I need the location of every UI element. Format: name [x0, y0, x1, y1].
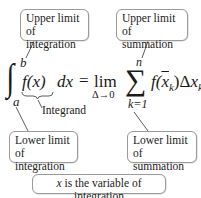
callout-lower-limit-integration: Lower limit of integration	[9, 131, 78, 163]
callout-line-2: of summation	[133, 147, 191, 173]
callout-line-1: Lower limit	[15, 134, 72, 147]
summand-delta: )Δ	[174, 72, 191, 91]
summand: f(xk)Δxk	[151, 72, 201, 93]
callout-line-1: Upper limit	[26, 12, 83, 25]
callout-line-2: of summation	[122, 25, 182, 51]
integral-upper-limit: b	[20, 55, 27, 71]
callout-line-1: Lower limit	[133, 134, 191, 147]
integrand: f(x)	[22, 72, 46, 92]
equals-sign: =	[79, 71, 89, 91]
integral-lower-limit: a	[13, 94, 20, 110]
summand-x: x	[190, 72, 198, 91]
integrand-label: Integrand	[42, 104, 86, 116]
summand-f: f(	[151, 72, 161, 91]
callout-line-2: of integration	[26, 25, 83, 51]
summand-xbar: x	[161, 72, 169, 91]
differential: dx	[57, 72, 73, 92]
integral-sign: ∫	[6, 55, 14, 99]
callout-line-2: of integration	[15, 147, 72, 173]
summation-lower-limit: k=1	[128, 97, 147, 112]
summand-subscript-k2: k	[198, 81, 201, 93]
limit-subscript: Δ→0	[92, 89, 115, 100]
integrand-brace	[22, 92, 53, 99]
variable-of-integration-note: x is the variable of integration	[32, 174, 166, 194]
summation-upper-limit: n	[136, 55, 142, 70]
callout-line-1: Upper limit	[122, 12, 182, 25]
callout-upper-limit-summation: Upper limit of summation	[116, 9, 188, 41]
callout-upper-limit-integration: Upper limit of integration	[20, 9, 89, 41]
callout-lower-limit-summation: Lower limit of summation	[127, 131, 197, 163]
